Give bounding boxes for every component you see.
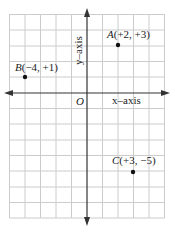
y-axis (84, 8, 90, 226)
y-axis-label: y–axis (72, 36, 84, 65)
point-c-label: C(+3, −5) (112, 154, 156, 167)
x-axis-left-arrow-icon (4, 90, 13, 96)
y-axis-up-arrow-icon (84, 8, 90, 17)
point-a-label: A(+2, +3) (106, 28, 150, 41)
point-c-dot (131, 170, 135, 174)
x-axis-right-arrow-icon (161, 90, 170, 96)
x-axis-label: x–axis (112, 94, 141, 106)
origin-label: O (76, 95, 84, 107)
point-b-dot (23, 75, 27, 79)
point-b-label: B(−4, +1) (15, 61, 58, 74)
y-axis-down-arrow-icon (84, 217, 90, 226)
coordinate-plane: x–axis O y–axis A(+2, +3) B(−4, +1) C(+3… (0, 0, 175, 232)
point-a: A(+2, +3) (106, 28, 150, 47)
point-b: B(−4, +1) (15, 61, 58, 79)
point-a-dot (116, 43, 120, 47)
